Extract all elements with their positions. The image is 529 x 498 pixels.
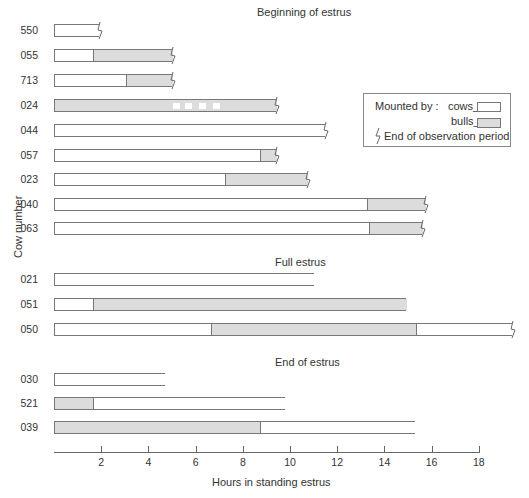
gap-marker xyxy=(185,103,192,109)
cow-bar xyxy=(54,74,172,87)
segment-bulls xyxy=(225,174,308,185)
x-tick xyxy=(432,446,433,453)
gap-marker xyxy=(199,103,206,109)
cow-bar xyxy=(54,323,512,336)
segment-bulls xyxy=(55,100,277,111)
legend-break-label: End of observation period xyxy=(384,130,509,142)
cow-number-label: 057 xyxy=(8,149,38,161)
cow-bar xyxy=(54,222,422,235)
cow-bar xyxy=(54,173,307,186)
gap-marker xyxy=(173,103,180,109)
x-tick-label: 2 xyxy=(86,456,116,468)
cow-bar xyxy=(54,273,314,286)
cow-bar xyxy=(54,99,276,112)
observation-end-icon xyxy=(509,321,517,338)
observation-end-icon xyxy=(169,72,177,89)
segment-cows xyxy=(55,299,93,310)
legend-title: Mounted by : xyxy=(375,100,439,112)
cow-number-label: 055 xyxy=(8,49,38,61)
segment-bulls xyxy=(211,324,416,335)
cow-bar xyxy=(54,149,276,162)
x-tick xyxy=(101,446,102,453)
x-tick xyxy=(337,446,338,453)
segment-cows xyxy=(55,174,225,185)
segment-cows xyxy=(55,25,100,36)
x-tick-label: 8 xyxy=(228,456,258,468)
legend-cows-swatch xyxy=(477,102,501,112)
segment-cows xyxy=(55,50,93,61)
cow-bar xyxy=(54,198,425,211)
x-tick xyxy=(384,446,385,453)
y-axis-title: Cow number xyxy=(12,198,24,258)
cow-number-label: 024 xyxy=(8,99,38,111)
cow-number-label: 030 xyxy=(8,373,38,385)
cow-number-label: 051 xyxy=(8,298,38,310)
x-tick xyxy=(479,446,480,453)
cow-number-label: 023 xyxy=(8,173,38,185)
legend-cows-label: cows_ xyxy=(448,100,479,112)
segment-cows xyxy=(55,374,166,385)
cow-number-label: 021 xyxy=(8,273,38,285)
cow-bar xyxy=(54,397,285,410)
break-symbol-icon xyxy=(374,128,382,144)
x-tick-label: 4 xyxy=(133,456,163,468)
x-tick-label: 16 xyxy=(417,456,447,468)
observation-end-icon xyxy=(419,220,427,237)
observation-end-icon xyxy=(273,97,281,114)
x-axis-line xyxy=(54,452,480,453)
cow-number-label: 039 xyxy=(8,421,38,433)
x-tick xyxy=(196,446,197,453)
segment-bulls xyxy=(55,398,93,409)
x-tick-label: 14 xyxy=(369,456,399,468)
group-title: Full estrus xyxy=(275,256,326,268)
segment-bulls xyxy=(93,50,173,61)
segment-bulls xyxy=(93,299,407,310)
segment-bulls xyxy=(55,422,260,433)
segment-cows xyxy=(55,199,367,210)
segment-cows xyxy=(55,324,211,335)
cow-bar xyxy=(54,24,99,37)
x-tick xyxy=(290,446,291,453)
legend-bulls-swatch xyxy=(477,118,501,128)
segment-cows xyxy=(55,125,326,136)
x-tick xyxy=(148,446,149,453)
observation-end-icon xyxy=(273,147,281,164)
cow-bar xyxy=(54,298,406,311)
segment-cows xyxy=(260,422,416,433)
observation-end-icon xyxy=(422,196,430,213)
segment-bulls xyxy=(126,75,173,86)
gap-marker xyxy=(213,103,220,109)
observation-end-icon xyxy=(322,122,330,139)
cow-bar xyxy=(54,124,325,137)
cow-number-label: 521 xyxy=(8,397,38,409)
segment-cows xyxy=(55,223,369,234)
legend-bulls-label: bulls_ xyxy=(451,115,480,127)
cow-number-label: 050 xyxy=(8,323,38,335)
x-tick-label: 12 xyxy=(322,456,352,468)
segment-bulls xyxy=(369,223,423,234)
cow-bar xyxy=(54,421,415,434)
cow-number-label: 713 xyxy=(8,74,38,86)
segment-cows xyxy=(55,274,315,285)
cow-number-label: 044 xyxy=(8,124,38,136)
legend: Mounted by : cows_ bulls_ End of observa… xyxy=(363,93,511,147)
segment-cows xyxy=(93,398,287,409)
cow-bar xyxy=(54,373,165,386)
segment-cows xyxy=(55,150,260,161)
x-tick-label: 6 xyxy=(181,456,211,468)
observation-end-icon xyxy=(304,171,312,188)
observation-end-icon xyxy=(96,22,104,39)
cow-bar xyxy=(54,49,172,62)
x-tick-label: 18 xyxy=(464,456,494,468)
segment-cows xyxy=(55,75,126,86)
group-title: End of estrus xyxy=(275,356,340,368)
x-tick xyxy=(243,446,244,453)
group-title: Beginning of estrus xyxy=(257,6,351,18)
segment-cows xyxy=(416,324,513,335)
x-axis-title: Hours in standing estrus xyxy=(212,476,331,488)
cow-number-label: 550 xyxy=(8,24,38,36)
segment-bulls xyxy=(367,199,426,210)
x-tick-label: 10 xyxy=(275,456,305,468)
observation-end-icon xyxy=(169,47,177,64)
